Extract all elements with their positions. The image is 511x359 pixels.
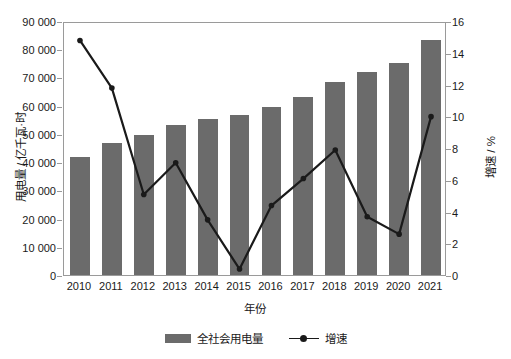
y-axis-right-tick-label: 10 [452,112,464,123]
y-axis-right-tick-mark [446,181,451,182]
y-axis-right-tick-mark [446,244,451,245]
line-marker-2018 [332,147,338,153]
line-marker-2021 [428,114,434,120]
y-axis-right-tick-mark [446,213,451,214]
y-axis-left-tick-label: 20 000 [22,214,56,225]
x-axis-tick-label-2017: 2017 [290,281,314,292]
y-axis-right-tick-label: 16 [452,17,464,28]
y-axis-right-tick-mark [446,54,451,55]
y-axis-right-tick-mark [446,22,451,23]
y-axis-left-tick-mark [57,191,62,192]
growth-rate-line [80,40,431,269]
y-axis-left-tick-mark [57,50,62,51]
x-axis-tick-label-2014: 2014 [194,281,218,292]
y-axis-left-tick-label: 40 000 [22,158,56,169]
y-axis-right-ticks: 0246810121416 [452,22,508,276]
chart-legend: 全社会用电量 增速 [0,330,511,346]
y-axis-right-tick-label: 2 [452,239,458,250]
x-axis-tick-label-2019: 2019 [354,281,378,292]
y-axis-left-tick-mark [57,248,62,249]
y-axis-right-tick-mark [446,86,451,87]
y-axis-left-tick-label: 0 [50,271,56,282]
line-series-layer [64,23,447,277]
x-axis-tick-label-2018: 2018 [322,281,346,292]
line-marker-2012 [141,192,147,198]
y-axis-left-tick-mark [57,22,62,23]
y-axis-right-tick-label: 4 [452,207,458,218]
x-axis-tick-label-2010: 2010 [67,281,91,292]
y-axis-left-tick-label: 50 000 [22,129,56,140]
y-axis-left-tick-mark [57,163,62,164]
legend-label-bar: 全社会用电量 [197,330,263,346]
y-axis-right-tick-label: 14 [452,48,464,59]
line-marker-2015 [237,266,243,272]
y-axis-right-tick-label: 6 [452,175,458,186]
y-axis-right-tick-mark [446,149,451,150]
legend-item-bar: 全社会用电量 [165,330,263,346]
x-axis-tick-label-2013: 2013 [162,281,186,292]
y-axis-left-tick-label: 10 000 [22,242,56,253]
line-marker-2010 [77,38,83,44]
x-axis-tick-label-2012: 2012 [131,281,155,292]
line-marker-2016 [269,203,275,209]
line-marker-2017 [301,176,307,182]
y-axis-left-tick-label: 60 000 [22,101,56,112]
y-axis-right-tick-label: 12 [452,80,464,91]
x-axis-tick-label-2015: 2015 [226,281,250,292]
y-axis-left-tick-label: 90 000 [22,17,56,28]
chart-container: 用电量 / 亿千瓦·时 增速 / % 010 00020 00030 00040… [0,0,511,359]
y-axis-right-tick-label: 0 [452,271,458,282]
x-axis-tick-label-2020: 2020 [386,281,410,292]
y-axis-left-ticks: 010 00020 00030 00040 00050 00060 00070 … [0,22,56,276]
y-axis-left-tick-mark [57,220,62,221]
plot-area [63,22,446,276]
y-axis-left-tick-mark [57,107,62,108]
y-axis-right-tick-mark [446,276,451,277]
x-axis-tick-label-2016: 2016 [258,281,282,292]
legend-label-line: 增速 [325,330,347,346]
x-axis-ticks: 2010201120122013201420152016201720182019… [63,281,446,297]
x-axis-tick-label-2021: 2021 [418,281,442,292]
y-axis-left-tick-mark [57,276,62,277]
x-axis-tick-label-2011: 2011 [99,281,123,292]
line-marker-2014 [205,217,211,223]
y-axis-left-tick-mark [57,78,62,79]
y-axis-left-tick-label: 30 000 [22,186,56,197]
line-marker-2020 [396,231,402,237]
x-axis-title: 年份 [63,300,446,316]
line-marker-2019 [364,214,370,220]
y-axis-right-tick-mark [446,117,451,118]
legend-item-line: 增速 [289,330,347,346]
y-axis-left-tick-label: 80 000 [22,45,56,56]
y-axis-right-tick-label: 8 [452,144,458,155]
line-marker-2013 [173,160,179,166]
y-axis-left-tick-label: 70 000 [22,73,56,84]
line-marker-2011 [109,85,115,91]
line-marker-icon [289,334,319,343]
bar-swatch-icon [165,334,191,343]
y-axis-left-tick-mark [57,135,62,136]
